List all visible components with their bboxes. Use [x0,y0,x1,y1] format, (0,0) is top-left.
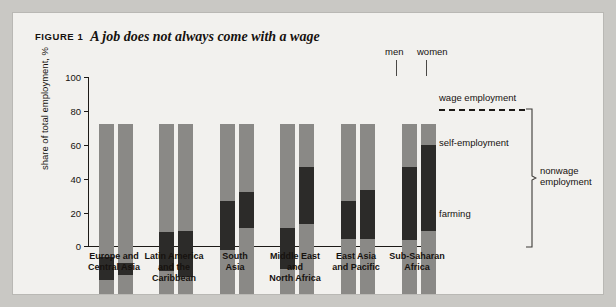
segment-self-employment [421,145,436,231]
segment-wage-employment [99,124,114,257]
y-tick-20 [84,213,89,214]
legend-divider-dashed [439,109,525,111]
y-tick-100 [84,77,89,78]
segment-wage-employment [299,124,314,167]
y-axis-label-40: 40 [55,175,81,185]
segment-farming [99,280,114,294]
segment-wage-employment [280,124,295,228]
segment-wage-employment [178,124,193,231]
segment-wage-employment [421,124,436,145]
x-axis-category-label: Sub-SaharanAfrica [379,251,455,273]
annotation-women-label: women [417,46,448,57]
segment-self-employment [220,201,235,250]
men-women-annotation: men women [13,13,603,83]
segment-self-employment [360,190,375,238]
y-axis-label-20: 20 [55,209,81,219]
y-axis-label-60: 60 [55,141,81,151]
legend-farming: farming [439,208,471,219]
segment-self-employment [402,167,417,239]
segment-self-employment [299,167,314,225]
segment-wage-employment [118,124,133,263]
y-tick-40 [84,179,89,180]
segment-self-employment [341,201,356,238]
segment-wage-employment [239,124,254,192]
nonwage-bracket-icon [525,108,537,248]
legend-nonwage-line1: nonwage [540,165,579,176]
y-tick-60 [84,145,89,146]
x-axis-category-label: Latin Americaand theCaribbean [133,251,215,284]
segment-wage-employment [360,124,375,190]
annotation-men-label: men [385,46,403,57]
segment-wage-employment [402,124,417,167]
segment-wage-employment [341,124,356,201]
figure-card: FIGURE 1A job does not always come with … [13,13,603,294]
legend-self-employment: self-employment [439,137,509,148]
y-axis-tick-labels: 100 80 60 40 20 0 [51,73,81,253]
segment-self-employment [239,192,254,228]
y-tick-80 [84,111,89,112]
chart-plot-area: men women 100 80 60 40 20 0 share of tot… [13,13,603,294]
leader-line-women [426,60,427,76]
legend-nonwage-line2: employment [540,176,592,187]
leader-line-men [396,60,397,76]
y-axis-title: share of total employment, % [39,29,50,189]
y-tick-0 [84,246,89,247]
x-axis-line [88,246,436,247]
y-axis-label-100: 100 [55,73,81,83]
segment-wage-employment [159,124,174,232]
y-axis-line [88,77,89,247]
legend-wage-employment: wage employment [439,92,516,103]
segment-wage-employment [220,124,235,201]
segment-farming [118,275,133,294]
y-axis-label-80: 80 [55,107,81,117]
